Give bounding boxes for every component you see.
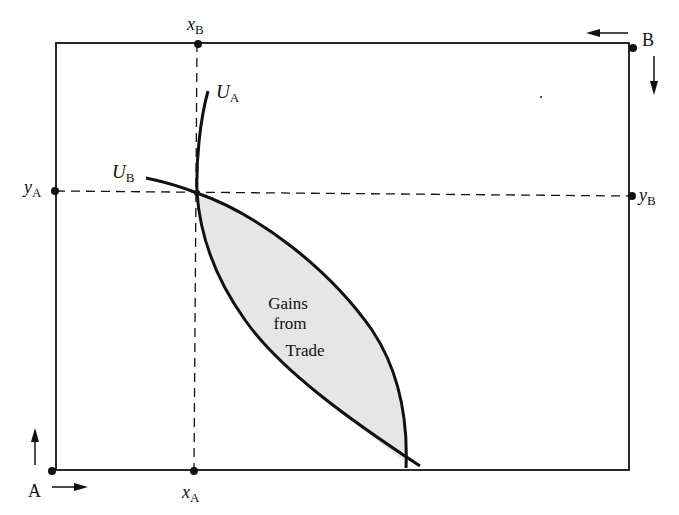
arrow-right-icon	[52, 483, 88, 491]
xb-label: xB	[186, 14, 204, 37]
xb-dot	[194, 40, 202, 48]
xa-label: xA	[181, 482, 200, 505]
origin-a-label: A	[28, 481, 41, 501]
stray-dot	[540, 96, 542, 98]
edgeworth-box-diagram: A B xA xB yA yB UA UB Gains from Trade	[0, 0, 679, 515]
x-endowment-dashed-line	[194, 43, 197, 470]
gains-label-line2: from	[273, 314, 306, 333]
ua-label: UA	[216, 81, 240, 105]
yb-label: yB	[637, 185, 656, 208]
ya-label: yA	[22, 177, 42, 200]
origin-a-dot	[48, 467, 56, 475]
arrow-down-icon	[650, 56, 658, 95]
endowment-point	[194, 190, 200, 196]
origin-b-label: B	[642, 30, 654, 50]
arrow-up-icon	[31, 428, 39, 465]
yb-dot	[628, 192, 636, 200]
arrow-left-icon	[586, 29, 628, 37]
ub-label: UB	[112, 161, 135, 185]
origin-b-dot	[629, 44, 637, 52]
xa-dot	[190, 467, 198, 475]
gains-label-line1: Gains	[268, 294, 308, 313]
ya-dot	[51, 187, 59, 195]
gains-label-line3: Trade	[285, 341, 324, 360]
y-endowment-dashed-line	[56, 191, 629, 196]
